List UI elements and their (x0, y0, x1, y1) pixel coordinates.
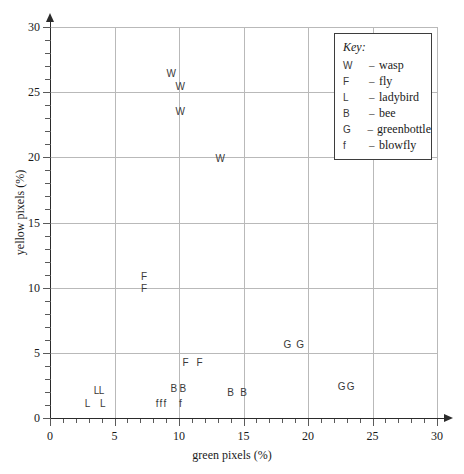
x-tick-minor (398, 419, 399, 423)
y-tick-minor (45, 314, 51, 315)
y-tick-minor (45, 131, 51, 132)
x-tick-minor (256, 419, 257, 423)
y-tick-minor (45, 53, 51, 54)
y-tick-minor (45, 196, 51, 197)
x-tick-minor (89, 419, 90, 423)
y-tick-label: 10 (14, 281, 40, 296)
x-tick-minor (321, 419, 322, 423)
y-tick-minor (45, 392, 51, 393)
x-tick-label: 20 (293, 429, 323, 444)
legend-symbol: f (343, 140, 369, 151)
data-point-ladybird: L (80, 399, 94, 409)
x-tick-label: 25 (358, 429, 388, 444)
y-tick-minor (45, 327, 51, 328)
legend-entry-greenbottle: G–greenbottle (343, 122, 431, 138)
scatter-plot-figure: green pixels (%) yellow pixels (%) Key: … (0, 0, 464, 474)
data-point-blowfly: f (158, 399, 172, 409)
y-tick-minor (45, 340, 51, 341)
x-tick-label: 30 (422, 429, 452, 444)
data-point-wasp: W (173, 82, 187, 92)
x-tick-minor (102, 419, 103, 423)
data-point-fly: F (137, 272, 151, 282)
legend-dash: – (369, 91, 379, 103)
x-axis-arrowhead (444, 414, 453, 422)
y-tick-minor (45, 105, 51, 106)
x-tick-major (179, 419, 180, 426)
x-tick-minor (269, 419, 270, 423)
x-tick-minor (153, 419, 154, 423)
y-tick-minor (45, 236, 51, 237)
legend-entries: W–waspF–flyL–ladybirdB–beeG–greenbottlef… (343, 58, 431, 154)
legend-label: bee (379, 106, 396, 121)
x-tick-major (50, 419, 51, 426)
legend-entry-fly: F–fly (343, 74, 431, 90)
x-tick-minor (218, 419, 219, 423)
legend-symbol: F (343, 76, 369, 87)
x-tick-minor (127, 419, 128, 423)
data-point-greenbottle: G (293, 340, 307, 350)
y-tick-minor (45, 249, 51, 250)
data-point-bee: B (237, 388, 251, 398)
legend-label: greenbottle (377, 122, 431, 137)
y-tick-minor (45, 144, 51, 145)
legend-title: Key: (343, 40, 431, 55)
data-point-fly: F (178, 358, 192, 368)
x-tick-minor (205, 419, 206, 423)
x-tick-label: 15 (229, 429, 259, 444)
x-tick-minor (334, 419, 335, 423)
legend-entry-ladybird: L–ladybird (343, 90, 431, 106)
data-point-ladybird: L (96, 399, 110, 409)
x-tick-major (244, 419, 245, 426)
x-tick-minor (63, 419, 64, 423)
data-point-bee: B (224, 388, 238, 398)
data-point-wasp: W (173, 107, 187, 117)
legend-label: blowfly (379, 138, 416, 153)
legend-label: fly (379, 74, 392, 89)
y-tick-minor (45, 170, 51, 171)
gridline-horizontal (50, 27, 437, 28)
legend-dash: – (368, 123, 377, 135)
x-tick-major (115, 419, 116, 426)
x-tick-major (308, 419, 309, 426)
y-tick-major (43, 27, 51, 28)
legend-dash: – (369, 75, 379, 87)
y-tick-minor (45, 262, 51, 263)
y-tick-minor (45, 79, 51, 80)
x-tick-label: 0 (35, 429, 65, 444)
x-tick-minor (347, 419, 348, 423)
x-tick-minor (192, 419, 193, 423)
y-tick-minor (45, 379, 51, 380)
y-tick-label: 20 (14, 150, 40, 165)
x-axis-label: green pixels (%) (0, 448, 464, 463)
x-tick-minor (424, 419, 425, 423)
gridline-horizontal (50, 223, 437, 224)
legend-entry-blowfly: f–blowfly (343, 138, 431, 154)
x-tick-minor (385, 419, 386, 423)
y-tick-minor (45, 40, 51, 41)
legend-dash: – (369, 139, 379, 151)
data-point-wasp: W (213, 154, 227, 164)
data-point-greenbottle: G (344, 382, 358, 392)
x-tick-major (373, 419, 374, 426)
x-tick-minor (360, 419, 361, 423)
legend-symbol: L (343, 92, 369, 103)
x-tick-minor (411, 419, 412, 423)
y-tick-label: 5 (14, 346, 40, 361)
y-tick-label: 15 (14, 216, 40, 231)
gridline-horizontal (50, 288, 437, 289)
y-tick-major (43, 157, 51, 158)
gridline-horizontal (50, 353, 437, 354)
y-tick-label: 30 (14, 20, 40, 35)
legend-label: wasp (379, 58, 404, 73)
data-point-greenbottle: G (280, 340, 294, 350)
y-tick-minor (45, 183, 51, 184)
y-tick-major (43, 353, 51, 354)
y-tick-minor (45, 118, 51, 119)
legend-dash: – (369, 59, 379, 71)
legend-symbol: G (343, 124, 368, 135)
y-tick-label: 25 (14, 85, 40, 100)
data-point-ladybird: L (95, 386, 109, 396)
data-point-blowfly: f (173, 399, 187, 409)
x-tick-major (437, 419, 438, 426)
x-tick-minor (76, 419, 77, 423)
